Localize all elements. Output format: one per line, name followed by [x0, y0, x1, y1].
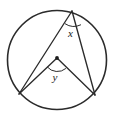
geometry-diagram: Circle with inscribed angle x and centra… — [0, 0, 115, 124]
inscribed-angle-label: x — [67, 27, 73, 39]
central-angle-label: y — [52, 71, 58, 83]
center-point-dot — [55, 56, 59, 60]
circle-geometry-figure: Circle with inscribed angle x and centra… — [0, 0, 115, 124]
circle-outline — [8, 11, 107, 110]
